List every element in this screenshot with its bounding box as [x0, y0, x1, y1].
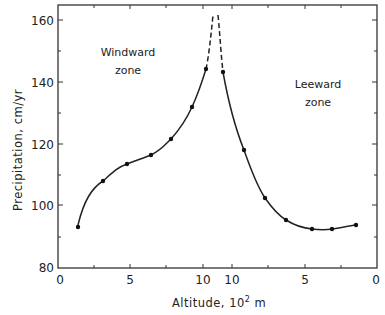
data-point [242, 148, 246, 152]
data-point [354, 223, 358, 227]
leeward-peak-dashed [218, 15, 223, 72]
x-axis-label-sup: 2 [245, 295, 251, 304]
x-tick-10-left: 10 [195, 273, 210, 287]
x-axis-label-main: Altitude, 10 [172, 296, 245, 310]
data-point [310, 227, 314, 231]
x-axis-label: Altitude, 102m [172, 295, 266, 310]
x-tick-5-left: 5 [126, 273, 134, 287]
y-tick-120: 120 [31, 138, 54, 152]
windward-peak-dashed [206, 15, 213, 69]
data-point [204, 67, 208, 71]
data-point [101, 179, 105, 183]
y-tick-160: 160 [31, 14, 54, 28]
leeward-label: Leeward [295, 78, 342, 91]
data-point [149, 153, 153, 157]
data-point [125, 162, 129, 166]
data-point [76, 225, 80, 229]
data-point [330, 227, 334, 231]
x-tick-5-right: 5 [301, 273, 309, 287]
windward-label: Windward [101, 46, 156, 59]
data-point [221, 70, 225, 74]
y-tick-140: 140 [31, 76, 54, 90]
precipitation-altitude-chart: 160 140 120 100 80 0 5 10 10 5 0 Precipi… [0, 0, 385, 315]
data-point [169, 137, 173, 141]
x-ticks [94, 5, 341, 268]
windward-curve [78, 69, 206, 225]
data-point [190, 105, 194, 109]
windward-zone-label: zone [115, 64, 141, 77]
x-tick-0-left: 0 [56, 273, 64, 287]
data-point [284, 218, 288, 222]
x-tick-0-right: 0 [372, 273, 380, 287]
x-tick-10-right: 10 [224, 273, 239, 287]
leeward-zone-label: zone [305, 96, 331, 109]
data-point [263, 196, 267, 200]
y-axis-label: Precipitation, cm/yr [11, 89, 25, 211]
y-tick-100: 100 [31, 199, 54, 213]
y-tick-80: 80 [39, 261, 54, 275]
x-axis-label-unit: m [254, 296, 266, 310]
data-points [76, 67, 358, 231]
plot-frame [58, 5, 377, 268]
